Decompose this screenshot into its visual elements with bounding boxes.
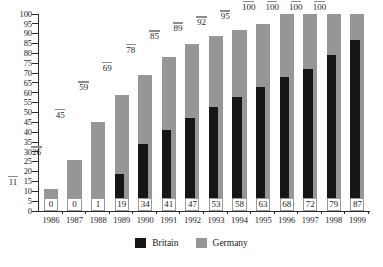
y-axis-tick-label: 20 [2,167,32,176]
x-axis-tick [344,211,345,214]
y-axis-tick [32,73,38,74]
britain-value-label: 0 [67,198,81,211]
germany-value-label: 69 [90,64,124,73]
bar-group [327,14,341,211]
y-axis-tick-label: 80 [2,49,32,58]
y-axis-tick-label: 85 [2,39,32,48]
y-axis-tick [32,171,38,172]
y-axis-tick-label: 0 [2,207,32,216]
germany-value-label: 26 [20,148,54,157]
y-axis-tick-label: 50 [2,108,32,117]
x-axis-tick-label: 1999 [340,215,374,225]
x-axis-tick [132,211,133,214]
germany-value-label: 95 [208,12,242,21]
bar-group [185,14,199,211]
y-axis-tick [32,211,38,212]
y-axis-tick [32,181,38,182]
y-axis-tick [32,53,38,54]
x-axis-tick [85,211,86,214]
y-axis-tick [32,161,38,162]
y-axis-tick-label: 35 [2,138,32,147]
britain-value-label: 79 [327,198,341,211]
y-axis-tick-label: 65 [2,79,32,88]
y-axis-tick [32,142,38,143]
y-axis-tick [32,33,38,34]
britain-value-label: 68 [280,198,294,211]
y-axis-tick-label: 75 [2,59,32,68]
chart-legend: Britain Germany [0,238,383,248]
x-axis-tick [368,211,369,214]
bar-britain [350,40,359,211]
x-axis-tick [62,211,63,214]
y-axis-tick [32,92,38,93]
bar-chart: 0510152025303540455055606570758085909510… [0,0,383,267]
y-axis-tick [32,82,38,83]
bar-britain [303,69,312,211]
britain-value-label: 0 [44,198,58,211]
y-axis-tick-label: 45 [2,118,32,127]
x-axis-tick [109,211,110,214]
y-axis-tick [32,14,38,15]
legend-label-britain: Britain [152,238,178,248]
britain-value-label: 1 [91,198,105,211]
y-axis-tick-label: 10 [2,187,32,196]
y-axis-tick [32,102,38,103]
britain-value-label: 19 [115,198,129,211]
britain-value-label: 72 [303,198,317,211]
britain-value-label: 53 [209,198,223,211]
germany-value-label: 11 [0,178,30,187]
bar-group [280,14,294,211]
x-axis-tick [227,211,228,214]
y-axis-tick [32,191,38,192]
germany-value-label: 59 [67,83,101,92]
y-axis-tick-label: 60 [2,89,32,98]
bar-group [256,14,270,211]
y-axis-tick [32,201,38,202]
y-axis-tick [32,23,38,24]
legend-label-germany: Germany [213,238,248,248]
britain-value-label: 41 [162,198,176,211]
bar-group [91,14,105,211]
legend-swatch-germany [196,238,207,248]
x-axis-tick [179,211,180,214]
legend-swatch-britain [135,238,146,248]
britain-value-label: 63 [256,198,270,211]
germany-value-label: 85 [137,32,171,41]
britain-value-label: 58 [232,198,246,211]
bar-group [232,14,246,211]
y-axis-labels: 0510152025303540455055606570758085909510… [0,0,32,267]
bar-britain [209,107,218,211]
y-axis-tick [32,122,38,123]
bar-britain [280,77,289,211]
y-axis-tick-label: 25 [2,157,32,166]
bar-group [162,14,176,211]
bar-group [350,14,364,211]
germany-value-label: 45 [43,111,77,120]
x-axis-tick [250,211,251,214]
legend-item-germany: Germany [196,238,248,248]
y-axis-tick-label: 90 [2,29,32,38]
britain-value-label: 87 [350,198,364,211]
x-axis-tick [274,211,275,214]
x-axis-tick [203,211,204,214]
bar-britain [256,87,265,211]
britain-value-label: 47 [185,198,199,211]
y-axis-tick [32,63,38,64]
germany-value-label: 78 [114,46,148,55]
bar-group [303,14,317,211]
y-axis-tick-label: 5 [2,197,32,206]
y-axis-tick [32,132,38,133]
y-axis-tick [32,43,38,44]
bar-britain [327,55,336,211]
x-axis-tick [156,211,157,214]
bar-britain [232,97,241,211]
y-axis-tick-label: 55 [2,98,32,107]
y-axis-tick-label: 40 [2,128,32,137]
y-axis-tick-label: 100 [2,10,32,19]
legend-item-britain: Britain [135,238,178,248]
britain-value-label: 34 [138,198,152,211]
germany-value-label: 100 [302,3,336,12]
bar-group [138,14,152,211]
y-axis-tick-label: 95 [2,20,32,29]
x-axis-tick [297,211,298,214]
